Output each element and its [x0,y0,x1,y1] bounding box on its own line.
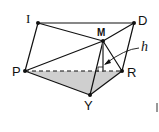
edge-dm [103,23,134,41]
vertex-dot-d [132,21,136,25]
vertex-dot-r [120,69,124,73]
label-y: Y [84,99,93,112]
pyramid-diagram: I D M P R Y h [0,0,159,132]
label-m: M [97,28,105,38]
edge-dr [122,23,134,71]
edge-im [38,23,103,41]
label-r: R [127,66,136,79]
vertex-dot-y [88,93,92,97]
shaded-face-pry [25,71,122,95]
edge-mr [103,41,122,71]
edge-ip [25,23,38,71]
label-h: h [141,40,148,54]
label-p: P [12,65,21,78]
edge-pm [25,41,103,71]
label-d: D [138,14,147,27]
vertex-dot-i [36,21,40,25]
vertex-dot-p [23,69,27,73]
vertex-dot-m [101,39,105,43]
label-i: I [26,12,30,25]
